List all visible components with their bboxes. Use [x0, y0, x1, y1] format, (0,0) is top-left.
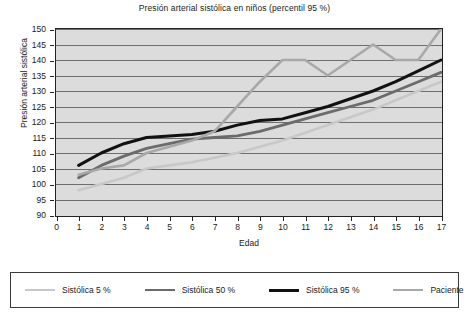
x-tick-label: 12	[318, 223, 338, 232]
x-tick-mark	[102, 217, 103, 221]
x-tick-label: 16	[409, 223, 429, 232]
x-tick-mark	[351, 217, 352, 221]
legend-swatch	[269, 289, 299, 292]
y-tick-label: 100	[20, 180, 46, 188]
x-tick-label: 10	[273, 223, 293, 232]
x-tick-label: 0	[47, 223, 67, 232]
plot-area	[55, 28, 443, 217]
x-tick-label: 17	[432, 223, 452, 232]
y-tick-mark	[50, 138, 54, 139]
legend-item[interactable]: Sistólica 5 %	[25, 285, 111, 295]
x-tick-label: 7	[205, 223, 225, 232]
x-tick-mark	[442, 217, 443, 221]
x-tick-mark	[57, 217, 58, 221]
legend-label: Sistólica 95 %	[306, 285, 359, 295]
x-axis-title: Edad	[55, 238, 443, 248]
y-tick-mark	[50, 30, 54, 31]
x-tick-mark	[238, 217, 239, 221]
y-tick-mark	[50, 76, 54, 77]
x-tick-mark	[260, 217, 261, 221]
y-tick-label: 105	[20, 165, 46, 173]
y-tick-label: 90	[20, 211, 46, 219]
y-tick-mark	[50, 169, 54, 170]
x-tick-mark	[192, 217, 193, 221]
chart-title: Presión arterial sistólica en niños (per…	[0, 3, 469, 13]
y-tick-label: 125	[20, 103, 46, 111]
y-tick-label: 95	[20, 196, 46, 204]
x-tick-mark	[283, 217, 284, 221]
x-tick-label: 1	[69, 223, 89, 232]
x-tick-label: 5	[160, 223, 180, 232]
x-tick-label: 14	[364, 223, 384, 232]
legend-swatch	[393, 289, 423, 292]
x-tick-label: 15	[386, 223, 406, 232]
legend-swatch	[25, 289, 55, 292]
x-tick-label: 4	[137, 223, 157, 232]
legend-label: Sistólica 5 %	[62, 285, 111, 295]
series-line-1	[79, 72, 441, 177]
x-tick-label: 8	[228, 223, 248, 232]
x-tick-label: 3	[114, 223, 134, 232]
x-tick-mark	[374, 217, 375, 221]
y-tick-label: 135	[20, 72, 46, 80]
x-tick-mark	[124, 217, 125, 221]
y-tick-mark	[50, 45, 54, 46]
series-lines	[56, 29, 442, 216]
x-tick-label: 13	[341, 223, 361, 232]
x-tick-mark	[419, 217, 420, 221]
y-tick-mark	[50, 123, 54, 124]
x-tick-label: 11	[296, 223, 316, 232]
x-tick-mark	[170, 217, 171, 221]
legend-swatch	[145, 289, 175, 292]
x-tick-mark	[79, 217, 80, 221]
x-tick-mark	[306, 217, 307, 221]
legend-item[interactable]: Paciente	[393, 285, 463, 295]
y-tick-mark	[50, 92, 54, 93]
y-tick-label: 140	[20, 56, 46, 64]
y-tick-mark	[50, 107, 54, 108]
x-tick-mark	[147, 217, 148, 221]
x-tick-label: 6	[182, 223, 202, 232]
y-tick-label: 150	[20, 25, 46, 33]
legend: Sistólica 5 %Sistólica 50 %Sistólica 95 …	[10, 272, 459, 308]
series-line-0	[79, 82, 441, 191]
y-tick-label: 115	[20, 134, 46, 142]
x-tick-mark	[328, 217, 329, 221]
chart-container: Presión arterial sistólica en niños (per…	[0, 0, 469, 318]
y-tick-mark	[50, 61, 54, 62]
x-tick-label: 9	[250, 223, 270, 232]
y-tick-label: 130	[20, 87, 46, 95]
y-tick-label: 120	[20, 118, 46, 126]
y-tick-mark	[50, 216, 54, 217]
legend-item[interactable]: Sistólica 95 %	[269, 285, 359, 295]
y-tick-mark	[50, 185, 54, 186]
x-tick-mark	[396, 217, 397, 221]
legend-label: Sistólica 50 %	[182, 285, 235, 295]
x-tick-label: 2	[92, 223, 112, 232]
series-line-2	[79, 60, 441, 165]
y-tick-label: 110	[20, 149, 46, 157]
legend-item[interactable]: Sistólica 50 %	[145, 285, 235, 295]
y-tick-mark	[50, 154, 54, 155]
x-tick-mark	[215, 217, 216, 221]
legend-label: Paciente	[430, 285, 463, 295]
y-tick-mark	[50, 200, 54, 201]
y-tick-label: 145	[20, 41, 46, 49]
